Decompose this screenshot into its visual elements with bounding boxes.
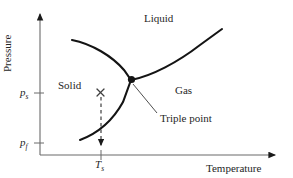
melting-curve [72,40,131,80]
axis-ticks [34,93,101,160]
phase-diagram-canvas [0,0,293,178]
y-tick-label-ps-sub: s [26,92,29,101]
triple-point-label: Triple point [160,113,212,124]
y-axis-label: Pressure [2,35,13,72]
x-tick-label-ts-sub: s [101,164,104,173]
process-start-cross-icon [97,89,104,96]
x-axis-label: Temperature [206,163,261,174]
triple-point-dot [128,76,135,83]
phase-diagram-figure: Pressure Temperature Liquid Solid Gas Tr… [0,0,293,178]
region-label-liquid: Liquid [144,13,173,24]
x-tick-label-ts: Ts [95,159,104,173]
vaporization-curve [131,29,222,80]
triple-point-leader-line [133,84,157,113]
y-tick-label-pf: pf [20,137,28,151]
sublimation-curve [80,80,131,140]
y-tick-label-ps: ps [20,87,28,101]
region-label-gas: Gas [175,85,192,96]
process-path-arrow [97,89,104,145]
y-tick-label-pf-sub: f [26,142,28,151]
region-label-solid: Solid [58,80,81,91]
